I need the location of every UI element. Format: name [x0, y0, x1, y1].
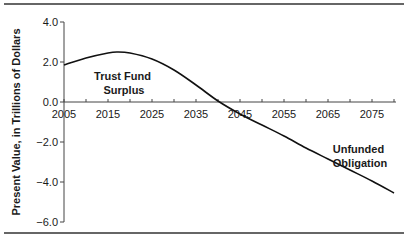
y-axis-label: Present Value, in Trillions of Dollars [10, 28, 22, 215]
y-tick-label: −4.0 [36, 176, 58, 188]
x-tick-label: 2055 [272, 108, 296, 120]
x-tick-label: 2035 [184, 108, 208, 120]
y-axis-ticks: 4.02.00.0−2.0−4.0−6.0 [36, 16, 64, 228]
x-tick-label: 2015 [96, 108, 120, 120]
y-tick-label: 2.0 [43, 56, 58, 68]
annotation-unfunded-obligation: Unfunded Obligation [333, 143, 388, 169]
x-tick-label: 2005 [52, 108, 76, 120]
y-tick-label: 4.0 [43, 16, 58, 28]
annotation-trust-fund-surplus: Trust Fund Surplus [94, 70, 154, 96]
x-tick-label: 2075 [360, 108, 384, 120]
x-tick-label: 2025 [140, 108, 164, 120]
y-tick-label: 0.0 [43, 96, 58, 108]
chart: Present Value, in Trillions of Dollars 4… [0, 0, 408, 238]
x-tick-label: 2065 [316, 108, 340, 120]
y-tick-label: −6.0 [36, 216, 58, 228]
y-tick-label: −2.0 [36, 136, 58, 148]
